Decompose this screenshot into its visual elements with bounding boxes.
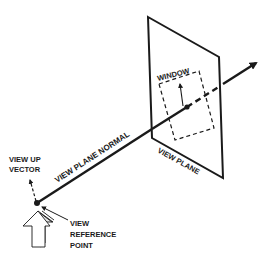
view-up-vector-arrow bbox=[30, 180, 36, 201]
up-indicator-arrow-icon bbox=[23, 211, 54, 247]
vrp-label-line1: VIEW bbox=[70, 219, 90, 228]
vrp-label-line3: POINT bbox=[70, 241, 93, 250]
view-plane-normal-label: VIEW PLANE NORMAL bbox=[53, 130, 131, 185]
view-up-vector-label-line2: VECTOR bbox=[9, 165, 41, 174]
view-up-vector-label-line1: VIEW UP bbox=[9, 155, 41, 164]
view-geometry-diagram: WINDOW VIEW PLANE NORMAL VIEW PLANE VIEW… bbox=[0, 0, 269, 260]
view-plane-normal-arrow bbox=[37, 63, 256, 203]
vrp-label-line2: REFERENCE bbox=[70, 230, 116, 239]
view-reference-point-dot bbox=[34, 200, 40, 206]
